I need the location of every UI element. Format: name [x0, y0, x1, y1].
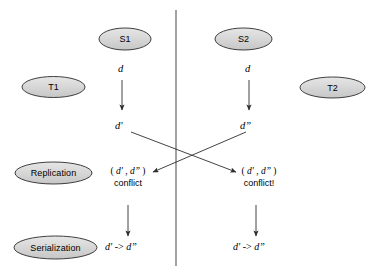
left-conflict-pair-close: ) [140, 166, 146, 176]
left-conflict-pair-sep: , [123, 166, 130, 176]
diagram-vector-layer [0, 0, 377, 276]
diagram-canvas: S1 S2 T1 T2 Replication Serialization d … [0, 0, 377, 276]
right-serialization-second: d” [254, 241, 265, 252]
left-conflict-pair-second: d” [130, 166, 140, 176]
left-conflict-pair-first: d' [116, 166, 123, 176]
left-serialization-arrow: -> [112, 241, 126, 252]
left-source-data-label: d [118, 63, 123, 74]
stage-ellipse-replication[interactable] [15, 162, 92, 184]
right-conflict-pair-close: ) [271, 166, 277, 176]
right-conflict-pair-second: d” [261, 166, 271, 176]
right-conflict-pair: ( d' , d” ) [226, 165, 292, 177]
right-result-data-text: d” [240, 120, 251, 131]
stage-ellipse-serialization[interactable] [14, 236, 97, 259]
right-conflict-pair-first: d' [247, 166, 254, 176]
transaction-ellipse-t1[interactable] [22, 77, 85, 98]
left-serialization-expression: d' -> d” [105, 241, 137, 252]
transaction-ellipse-t2[interactable] [300, 77, 365, 98]
right-source-data-label: d [245, 63, 250, 74]
left-result-data-text: d' [115, 120, 123, 131]
right-conflict-pair-sep: , [254, 166, 261, 176]
site-ellipse-s2[interactable] [215, 28, 272, 50]
left-serialization-second: d” [126, 241, 137, 252]
left-result-data-label: d' [115, 120, 123, 131]
site-ellipse-s1[interactable] [99, 28, 151, 50]
right-serialization-expression: d' -> d” [233, 241, 265, 252]
right-result-data-label: d” [240, 120, 251, 131]
left-conflict-pair: ( d' , d” ) [95, 165, 161, 177]
left-conflict-block: ( d' , d” ) conflict [95, 165, 161, 189]
right-serialization-arrow: -> [240, 241, 254, 252]
right-conflict-word: conflict! [226, 177, 292, 189]
left-source-data-text: d [118, 63, 123, 74]
left-conflict-word: conflict [95, 177, 161, 189]
right-source-data-text: d [245, 63, 250, 74]
right-conflict-block: ( d' , d” ) conflict! [226, 165, 292, 189]
